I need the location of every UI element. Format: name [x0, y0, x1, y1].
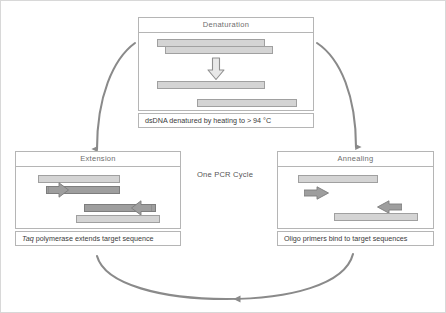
arc-denaturation-to-annealing: [317, 43, 356, 147]
stage-denaturation-header: Denaturation: [138, 17, 314, 33]
pcr-cycle-diagram: Denaturation dsDNA denatured by heating …: [0, 0, 446, 313]
extension-polymerase-arrowhead-2-icon: [130, 200, 152, 216]
stage-denaturation-body: [138, 33, 314, 111]
stage-annealing-header: Annealing: [277, 151, 434, 167]
stage-extension-caption: Taq polymerase extends target sequence: [15, 231, 181, 246]
arc-bottom-arrowhead: [233, 296, 240, 303]
annealing-reverse-primer-icon: [376, 200, 402, 214]
stage-denaturation: Denaturation dsDNA denatured by heating …: [138, 17, 314, 128]
stage-extension-header: Extension: [15, 151, 181, 167]
stage-extension-caption-taq: Taq: [22, 234, 34, 243]
center-label: One PCR Cycle: [173, 170, 277, 179]
stage-annealing-caption: Oligo primers bind to target sequences: [277, 231, 434, 246]
denaturation-separated-strand-2: [197, 99, 297, 107]
stage-extension-body: [15, 167, 181, 229]
arc-extension-to-denaturation: [97, 43, 135, 149]
stage-annealing: Annealing Oligo primers bind to target s…: [277, 151, 434, 246]
extension-polymerase-arrowhead-1-icon: [48, 182, 70, 198]
stage-denaturation-caption: dsDNA denatured by heating to > 94 °C: [138, 113, 314, 128]
stage-extension: Extension Taq polymerase extends target …: [15, 151, 181, 246]
denaturation-separated-strand-1: [157, 81, 265, 89]
extension-template-strand-2: [76, 215, 160, 223]
annealing-template-strand-1: [298, 175, 378, 183]
stage-extension-caption-rest: polymerase extends target sequence: [34, 234, 154, 243]
annealing-forward-primer-icon: [304, 186, 330, 200]
arc-annealing-to-extension: [97, 254, 353, 299]
denaturation-bottom-strand: [165, 46, 273, 54]
annealing-template-strand-2: [334, 213, 418, 221]
stage-annealing-body: [277, 167, 434, 229]
denaturation-down-arrow-icon: [205, 57, 227, 81]
